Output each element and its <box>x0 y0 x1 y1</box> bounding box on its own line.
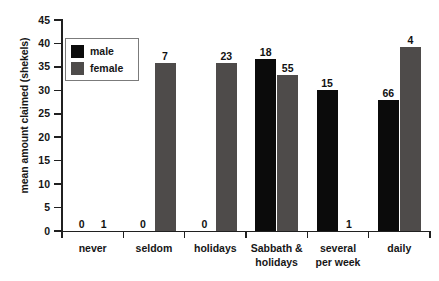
legend-label-male: male <box>90 45 114 58</box>
x-tick-5 <box>368 231 370 238</box>
y-tick-label-45: 45 <box>24 14 50 27</box>
bar-count-label-female-3: 55 <box>271 62 304 74</box>
x-tick-0 <box>61 231 63 238</box>
x-axis-label-3: Sabbath & holidays <box>246 241 307 269</box>
y-tick-label-5: 5 <box>24 201 50 214</box>
y-tick-label-text: 15 <box>24 154 50 167</box>
y-tick-5 <box>54 207 62 209</box>
y-tick-30 <box>54 90 62 92</box>
legend-item-female: female <box>71 60 133 77</box>
bar-chart: mean amount claimed (shekels) 0510152025… <box>0 0 439 281</box>
y-tick-20 <box>54 136 62 138</box>
bar-male-4 <box>317 90 338 231</box>
y-tick-label-text: 0 <box>24 225 50 238</box>
legend: male female <box>65 38 139 81</box>
x-tick-6 <box>429 231 431 238</box>
x-axis-label-1: seldom <box>123 241 184 255</box>
bar-female-1 <box>155 63 176 231</box>
y-tick-label-20: 20 <box>24 131 50 144</box>
x-axis-label-2: holidays <box>185 241 246 255</box>
x-axis-label-4: several per week <box>307 241 368 269</box>
bar-count-label-female-4: 1 <box>333 218 366 230</box>
x-tick-4 <box>307 231 309 238</box>
y-tick-15 <box>54 160 62 162</box>
y-tick-label-text: 45 <box>24 14 50 27</box>
y-tick-label-15: 15 <box>24 154 50 167</box>
bar-count-label-female-5: 4 <box>394 34 427 46</box>
y-tick-40 <box>54 43 62 45</box>
y-tick-label-25: 25 <box>24 107 50 120</box>
y-tick-label-0: 0 <box>24 225 50 238</box>
y-tick-label-text: 30 <box>24 84 50 97</box>
y-tick-label-text: 25 <box>24 107 50 120</box>
bar-count-label-female-1: 7 <box>149 50 182 62</box>
y-tick-label-30: 30 <box>24 84 50 97</box>
y-tick-10 <box>54 183 62 185</box>
legend-swatch-female-icon <box>71 62 84 75</box>
y-tick-label-text: 10 <box>24 178 50 191</box>
y-tick-label-10: 10 <box>24 178 50 191</box>
bar-male-3 <box>255 59 276 231</box>
y-tick-45 <box>54 19 62 21</box>
x-tick-2 <box>184 231 186 238</box>
x-tick-1 <box>123 231 125 238</box>
bar-count-label-female-2: 23 <box>210 50 243 62</box>
x-axis-label-0: never <box>62 241 123 255</box>
bar-count-label-male-3: 18 <box>249 46 282 58</box>
x-tick-3 <box>245 231 247 238</box>
bar-female-2 <box>216 63 237 231</box>
y-tick-label-text: 40 <box>24 37 50 50</box>
bar-count-label-male-4: 15 <box>311 77 344 89</box>
bar-female-3 <box>277 75 298 231</box>
y-tick-35 <box>54 66 62 68</box>
bar-count-label-female-0: 1 <box>87 218 120 230</box>
legend-swatch-male-icon <box>71 45 84 58</box>
x-axis-label-5: daily <box>369 241 430 255</box>
y-tick-label-text: 5 <box>24 201 50 214</box>
legend-label-female: female <box>90 62 123 75</box>
y-tick-25 <box>54 113 62 115</box>
y-tick-label-text: 20 <box>24 131 50 144</box>
bar-male-5 <box>378 100 399 231</box>
y-tick-label-40: 40 <box>24 37 50 50</box>
y-tick-label-35: 35 <box>24 60 50 73</box>
legend-item-male: male <box>71 43 133 60</box>
y-tick-label-text: 35 <box>24 60 50 73</box>
bar-female-5 <box>400 47 421 231</box>
